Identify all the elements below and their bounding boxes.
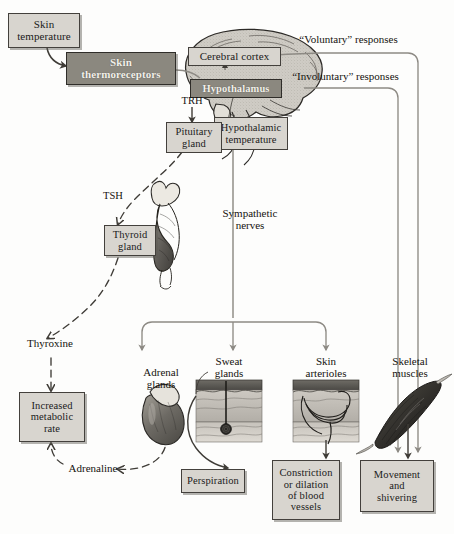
arrow-thyroxine-dashed <box>48 258 118 338</box>
arrow-skin-temp-to-thermoreceptors <box>47 48 66 66</box>
box-perspiration-label: Perspiration <box>187 475 239 486</box>
box-cerebral-cortex[interactable]: Cerebral cortex <box>188 47 281 66</box>
caption-involuntary-responses: “Involuntary” responses <box>258 70 433 82</box>
box-thyroid-gland-label: Thyroid gland <box>113 229 148 252</box>
box-skin-temperature-label: Skin temperature <box>17 19 71 43</box>
box-pituitary-gland-label: Pituitary gland <box>175 126 212 149</box>
caption-skeletal-muscles: Skeletal muscles <box>377 355 443 379</box>
caption-adrenaline: Adrenaline <box>60 462 126 474</box>
caption-sympathetic-nerves: Sympathetic nerves <box>206 207 294 231</box>
box-thyroid-gland[interactable]: Thyroid gland <box>104 225 156 256</box>
box-skin-temperature[interactable]: Skin temperature <box>8 13 80 48</box>
box-skin-thermoreceptors[interactable]: Skin thermoreceptors <box>66 52 176 85</box>
box-pituitary-gland[interactable]: Pituitary gland <box>166 122 222 153</box>
box-constriction-dilation-label: Constriction or dilation of blood vessel… <box>279 467 332 512</box>
box-hypothalamus-label: Hypothalamus <box>202 83 269 94</box>
arrow-branch-adrenal <box>142 322 233 350</box>
box-skin-thermoreceptors-label: Skin thermoreceptors <box>81 57 160 81</box>
box-hypothalamic-temperature[interactable]: Hypothalamic temperature <box>214 117 288 150</box>
box-hypothalamic-temperature-label: Hypothalamic temperature <box>221 122 282 145</box>
caption-sweat-glands: Sweat glands <box>198 355 260 379</box>
thermoregulation-diagram: Skin temperature Skin thermoreceptors Ce… <box>0 0 454 534</box>
caption-skin-arterioles: Skin arterioles <box>293 355 359 379</box>
box-movement-shivering[interactable]: Movement and shivering <box>360 460 434 512</box>
box-perspiration[interactable]: Perspiration <box>181 469 245 493</box>
skin-arteriole-illustration <box>293 380 359 458</box>
skeletal-muscle-illustration <box>356 374 452 458</box>
box-increased-metabolic-rate[interactable]: Increased metabolic rate <box>19 392 85 442</box>
caption-thyroxine: Thyroxine <box>14 337 86 349</box>
adrenal-gland-illustration <box>142 384 184 444</box>
box-cerebral-cortex-label: Cerebral cortex <box>200 51 270 63</box>
box-increased-metabolic-rate-label: Increased metabolic rate <box>31 400 73 434</box>
box-constriction-dilation[interactable]: Constriction or dilation of blood vessel… <box>272 460 340 520</box>
caption-trh: TRH <box>172 95 212 107</box>
caption-voluntary-responses: “Voluntary” responses <box>266 33 431 45</box>
caption-adrenal-glands: Adrenal glands <box>123 366 199 390</box>
arrow-branch-arterioles <box>233 322 326 350</box>
box-movement-shivering-label: Movement and shivering <box>374 469 420 503</box>
caption-tsh: TSH <box>96 190 130 202</box>
arrow-adrenaline-to-metabolic <box>51 444 63 464</box>
